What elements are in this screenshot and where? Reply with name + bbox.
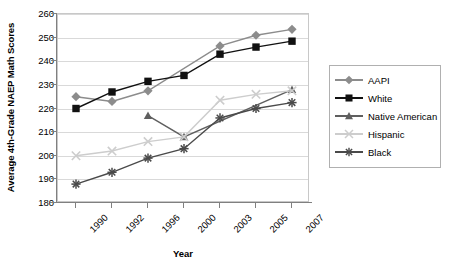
diamond-marker <box>71 92 80 101</box>
legend-swatch <box>335 109 363 123</box>
y-tick-mark <box>51 37 57 38</box>
y-tick-label: 190 <box>24 173 54 184</box>
diamond-marker <box>251 31 260 40</box>
diamond-marker <box>215 41 224 50</box>
y-tick-label: 210 <box>24 126 54 137</box>
asterisk-marker <box>71 180 80 189</box>
y-tick-label: 200 <box>24 149 54 160</box>
series-line <box>148 90 292 137</box>
x-tick-label: 1992 <box>123 212 146 235</box>
square-marker <box>72 105 79 112</box>
series-lines <box>58 14 310 203</box>
legend-diamond-icon <box>341 73 357 87</box>
diamond-marker <box>287 25 296 34</box>
y-axis-title-text: Average 4th-Grade NAEP Math Scores <box>6 23 17 192</box>
y-tick-mark <box>51 84 57 85</box>
x-tick-label: 2000 <box>195 212 218 235</box>
plot-area <box>57 13 309 202</box>
legend-item-white[interactable]: White <box>333 89 440 107</box>
legend-square-icon <box>341 91 357 105</box>
legend-item-native-american[interactable]: Native American <box>333 107 440 125</box>
x-marker <box>345 130 353 138</box>
diamond-marker <box>345 76 354 85</box>
x-tick-mark <box>183 203 184 208</box>
triangle-marker <box>345 112 353 119</box>
y-tick-label: 220 <box>24 102 54 113</box>
y-tick-label: 250 <box>24 31 54 42</box>
legend-item-hispanic[interactable]: Hispanic <box>333 125 440 143</box>
asterisk-marker <box>345 148 354 157</box>
x-tick-label: 1990 <box>87 212 110 235</box>
y-tick-mark <box>51 131 57 132</box>
y-tick-mark <box>51 60 57 61</box>
diamond-marker <box>143 86 152 95</box>
legend-triangle-icon <box>341 109 357 123</box>
diamond-marker <box>107 97 116 106</box>
chart-legend: AAPIWhiteNative AmericanHispanicBlack <box>329 65 441 168</box>
asterisk-marker <box>215 113 224 122</box>
x-axis-title: Year <box>57 248 309 259</box>
y-tick-mark <box>51 202 57 203</box>
x-tick-mark <box>147 203 148 208</box>
x-tick-mark <box>291 203 292 208</box>
legend-label: AAPI <box>368 75 390 86</box>
x-tick-label: 2005 <box>267 212 290 235</box>
chart-container: Average 4th-Grade NAEP Math Scores 18019… <box>0 0 449 270</box>
x-tick-mark <box>255 203 256 208</box>
legend-swatch <box>335 73 363 87</box>
y-tick-label: 240 <box>24 55 54 66</box>
square-marker <box>216 50 223 57</box>
legend-label: Black <box>368 147 391 158</box>
asterisk-marker <box>143 154 152 163</box>
x-tick-label: 2003 <box>231 212 254 235</box>
legend-swatch <box>335 145 363 159</box>
x-tick-mark <box>219 203 220 208</box>
y-tick-mark <box>51 108 57 109</box>
legend-label: White <box>368 93 392 104</box>
y-tick-mark <box>51 155 57 156</box>
y-axis-ticks: 180190200210220230240250260 <box>20 0 54 270</box>
square-marker <box>108 88 115 95</box>
y-tick-label: 230 <box>24 78 54 89</box>
asterisk-marker <box>287 98 296 107</box>
legend-swatch <box>335 127 363 141</box>
square-marker <box>345 94 352 101</box>
asterisk-marker <box>179 144 188 153</box>
x-tick-label: 2007 <box>303 212 326 235</box>
square-marker <box>288 37 295 44</box>
y-axis-title: Average 4th-Grade NAEP Math Scores <box>0 0 22 215</box>
legend-item-black[interactable]: Black <box>333 143 440 161</box>
legend-swatch <box>335 91 363 105</box>
y-tick-mark <box>51 178 57 179</box>
x-tick-label: 1996 <box>159 212 182 235</box>
square-marker <box>180 72 187 79</box>
legend-label: Native American <box>368 111 437 122</box>
x-tick-mark <box>75 203 76 208</box>
triangle-marker <box>144 111 152 119</box>
x-tick-mark <box>111 203 112 208</box>
legend-item-aapi[interactable]: AAPI <box>333 71 440 89</box>
y-tick-mark <box>51 13 57 14</box>
asterisk-marker <box>107 168 116 177</box>
y-tick-label: 260 <box>24 8 54 19</box>
legend-asterisk-icon <box>341 145 357 159</box>
square-marker <box>144 78 151 85</box>
legend-x-icon <box>341 127 357 141</box>
square-marker <box>252 43 259 50</box>
legend-label: Hispanic <box>368 129 404 140</box>
asterisk-marker <box>251 104 260 113</box>
